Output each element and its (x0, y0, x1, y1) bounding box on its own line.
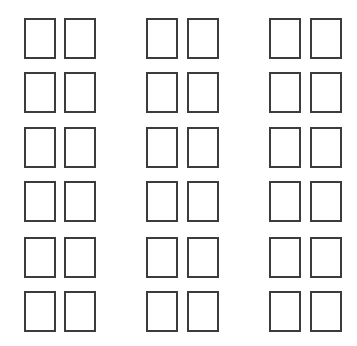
rectangle-cell (146, 181, 178, 222)
rectangle-cell (64, 18, 96, 59)
rectangle-cell (187, 291, 219, 332)
rectangle-cell (24, 72, 56, 113)
rectangle-cell (146, 18, 178, 59)
rectangle-cell (24, 291, 56, 332)
rectangle-cell (269, 291, 301, 332)
rectangle-cell (310, 181, 342, 222)
rectangle-cell (187, 18, 219, 59)
rectangle-cell (146, 72, 178, 113)
rectangle-cell (24, 18, 56, 59)
rectangle-cell (310, 237, 342, 278)
rectangle-cell (24, 237, 56, 278)
rectangle-cell (146, 291, 178, 332)
rectangle-cell (24, 181, 56, 222)
rectangle-cell (187, 72, 219, 113)
rectangle-cell (24, 127, 56, 168)
rectangle-cell (269, 127, 301, 168)
rectangle-cell (64, 72, 96, 113)
rectangle-cell (269, 181, 301, 222)
rectangle-cell (269, 237, 301, 278)
rectangle-cell (310, 127, 342, 168)
rectangle-grid-diagram (0, 0, 357, 346)
rectangle-cell (64, 291, 96, 332)
rectangle-cell (146, 237, 178, 278)
rectangle-cell (310, 72, 342, 113)
rectangle-cell (310, 18, 342, 59)
rectangle-cell (64, 237, 96, 278)
rectangle-cell (187, 181, 219, 222)
rectangle-cell (310, 291, 342, 332)
rectangle-cell (187, 127, 219, 168)
rectangle-cell (269, 18, 301, 59)
rectangle-cell (269, 72, 301, 113)
rectangle-cell (64, 181, 96, 222)
rectangle-cell (146, 127, 178, 168)
rectangle-cell (187, 237, 219, 278)
rectangle-cell (64, 127, 96, 168)
